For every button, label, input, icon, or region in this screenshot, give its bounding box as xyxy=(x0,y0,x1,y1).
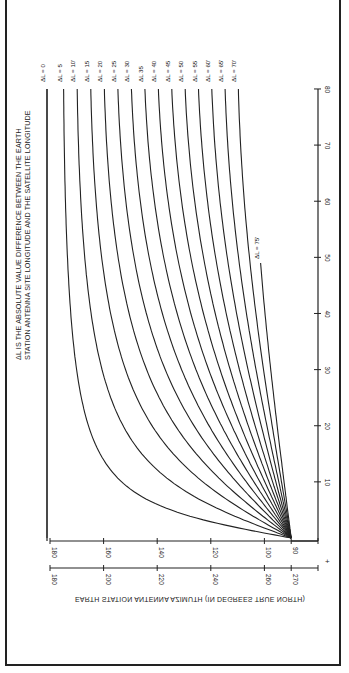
curve-label-delta-l-55: ΔL = 55 xyxy=(191,60,198,82)
curve-label-delta-l-75: ΔL = 75' xyxy=(253,236,260,258)
curve-label-delta-l-35: ΔL 35 xyxy=(137,65,144,82)
azimuth-chart: 18016014012010090180200220240260270+1020… xyxy=(0,0,349,673)
curve-label-delta-l-65: ΔL = 65' xyxy=(217,60,224,82)
azimuth-axis-1-tick-label: 120 xyxy=(212,547,219,558)
curve-label-delta-l-45: ΔL = 45 xyxy=(164,60,171,82)
delta-l-note: ΔL IS THE ABSOLUTE VALUE DIFFERENCE BETW… xyxy=(14,60,44,360)
latitude-axis-tick-label: 40 xyxy=(324,310,331,318)
curve-delta-l-20 xyxy=(104,89,291,538)
latitude-axis-tick-label: 50 xyxy=(324,254,331,262)
curve-delta-l-55 xyxy=(199,89,292,538)
azimuth-axis-2-tick-label: 220 xyxy=(158,574,165,585)
azimuth-axis-2-tick-label: 240 xyxy=(212,574,219,585)
latitude-axis-tick-label: 10 xyxy=(324,479,331,487)
curve-label-delta-l-10: ΔL = 10' xyxy=(69,60,76,82)
curve-label-delta-l-20: ΔL = 20 xyxy=(96,60,103,82)
curve-delta-l-40 xyxy=(158,89,291,538)
azimuth-axis-1-tick-label: 180 xyxy=(51,547,58,558)
azimuth-axis-2-tick-label: 260 xyxy=(265,574,272,585)
note-line-2: STATION ANTENNA SITE LONGITUDE AND THE S… xyxy=(23,60,32,360)
latitude-axis-tick-label: 60 xyxy=(324,198,331,206)
latitude-axis-tick-label: 30 xyxy=(324,367,331,375)
azimuth-axis-1-tick-label: 140 xyxy=(158,547,165,558)
curve-delta-l-65 xyxy=(225,89,291,538)
curve-label-delta-l-25: ΔL = 25 xyxy=(110,60,117,82)
curve-label-delta-l-60: ΔL = 60' xyxy=(204,60,211,82)
curve-label-delta-l-30: ΔL = 30 xyxy=(123,60,130,82)
curve-label-delta-l-70: ΔL = 70' xyxy=(230,60,237,82)
curve-delta-l-10 xyxy=(77,89,291,538)
latitude-axis-tick-label: 70 xyxy=(324,142,331,150)
curve-label-delta-l-15: ΔL = 15 xyxy=(83,60,90,82)
note-line-1: ΔL IS THE ABSOLUTE VALUE DIFFERENCE BETW… xyxy=(14,60,23,360)
azimuth-axis-1-tick-label: 90 xyxy=(292,547,299,555)
azimuth-axis-2-tick-label: 270 xyxy=(292,574,299,585)
azimuth-axis-2-tick-label: 200 xyxy=(105,574,112,585)
curve-label-delta-l-5: ΔL = 5 xyxy=(56,64,63,82)
azimuth-axis-2-tick-label: 180 xyxy=(51,574,58,585)
curve-label-delta-l-40: ΔL = 40 xyxy=(150,60,157,82)
latitude-axis-tick-label: 20 xyxy=(324,423,331,431)
plus-marker: + xyxy=(325,557,330,566)
x-axis-title: EARTH STATION ANTENNA AZIMUTH (IN DEGREE… xyxy=(70,596,310,603)
latitude-axis-tick-label: 80 xyxy=(324,86,331,94)
azimuth-axis-1-tick-label: 100 xyxy=(265,547,272,558)
curve-label-delta-l-50: ΔL = 50 xyxy=(177,60,184,82)
curve-delta-l-75 xyxy=(261,263,292,538)
azimuth-axis-1-tick-label: 160 xyxy=(105,547,112,558)
